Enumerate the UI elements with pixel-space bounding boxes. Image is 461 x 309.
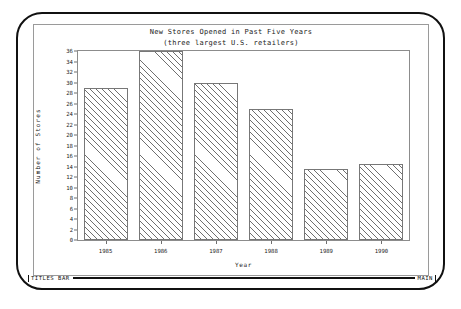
y-tick-label: 20 <box>66 132 73 138</box>
x-tick-mark <box>326 241 327 244</box>
bar-series <box>78 51 409 240</box>
bar-1990 <box>359 164 403 240</box>
status-bar-right-label[interactable]: MAIN <box>416 275 435 281</box>
y-tick-label: 28 <box>66 90 73 96</box>
x-tick-label: 1990 <box>375 248 388 255</box>
y-axis-title: Number of Stores <box>31 50 43 241</box>
y-tick-label: 10 <box>66 185 73 191</box>
x-tick-label: 1989 <box>320 248 333 255</box>
y-tick-label: 16 <box>66 153 73 159</box>
status-bar-rule <box>73 277 415 279</box>
x-tick-label: 1985 <box>99 248 112 255</box>
y-tick-label: 8 <box>70 195 73 201</box>
bar-1989 <box>304 169 348 240</box>
x-tick-label: 1987 <box>209 248 222 255</box>
x-tick-mark <box>381 241 382 244</box>
bar-1988 <box>249 109 293 240</box>
x-axis-title: Year <box>77 261 410 268</box>
x-tick-label: 1988 <box>264 248 277 255</box>
y-tick-label: 26 <box>66 101 73 107</box>
y-tick-label: 32 <box>66 69 73 75</box>
y-axis: 363432302826242220181614121086420 <box>55 50 77 241</box>
x-tick-label: 1986 <box>154 248 167 255</box>
x-tick-mark <box>216 241 217 244</box>
chart-title: New Stores Opened in Past Five Years <box>34 27 428 38</box>
y-tick-label: 6 <box>70 206 73 212</box>
bar-1986 <box>139 51 183 240</box>
status-bar-right-bracket <box>435 275 436 282</box>
chart-subtitle: (three largest U.S. retailers) <box>34 38 428 49</box>
y-tick-label: 18 <box>66 143 73 149</box>
y-tick-label: 14 <box>66 164 73 170</box>
y-tick-label: 2 <box>70 227 73 233</box>
x-tick-mark <box>161 241 162 244</box>
y-tick-label: 36 <box>66 48 73 54</box>
status-bar: TITLES BAR MAIN <box>28 272 436 284</box>
status-bar-left-label[interactable]: TITLES BAR <box>29 275 72 281</box>
y-tick-label: 30 <box>66 80 73 86</box>
x-tick-mark <box>271 241 272 244</box>
x-tick-mark <box>106 241 107 244</box>
y-tick-label: 0 <box>70 237 73 243</box>
chart-title-block: New Stores Opened in Past Five Years (th… <box>34 27 428 49</box>
y-tick-label: 22 <box>66 122 73 128</box>
y-axis-title-label: Number of Stores <box>34 108 41 183</box>
y-tick-label: 4 <box>70 216 73 222</box>
bar-1987 <box>194 83 238 241</box>
bar-1985 <box>84 88 128 240</box>
y-tick-label: 34 <box>66 59 73 65</box>
y-tick-label: 12 <box>66 174 73 180</box>
y-tick-label: 24 <box>66 111 73 117</box>
x-axis: 198519861987198819891990 <box>77 241 410 259</box>
